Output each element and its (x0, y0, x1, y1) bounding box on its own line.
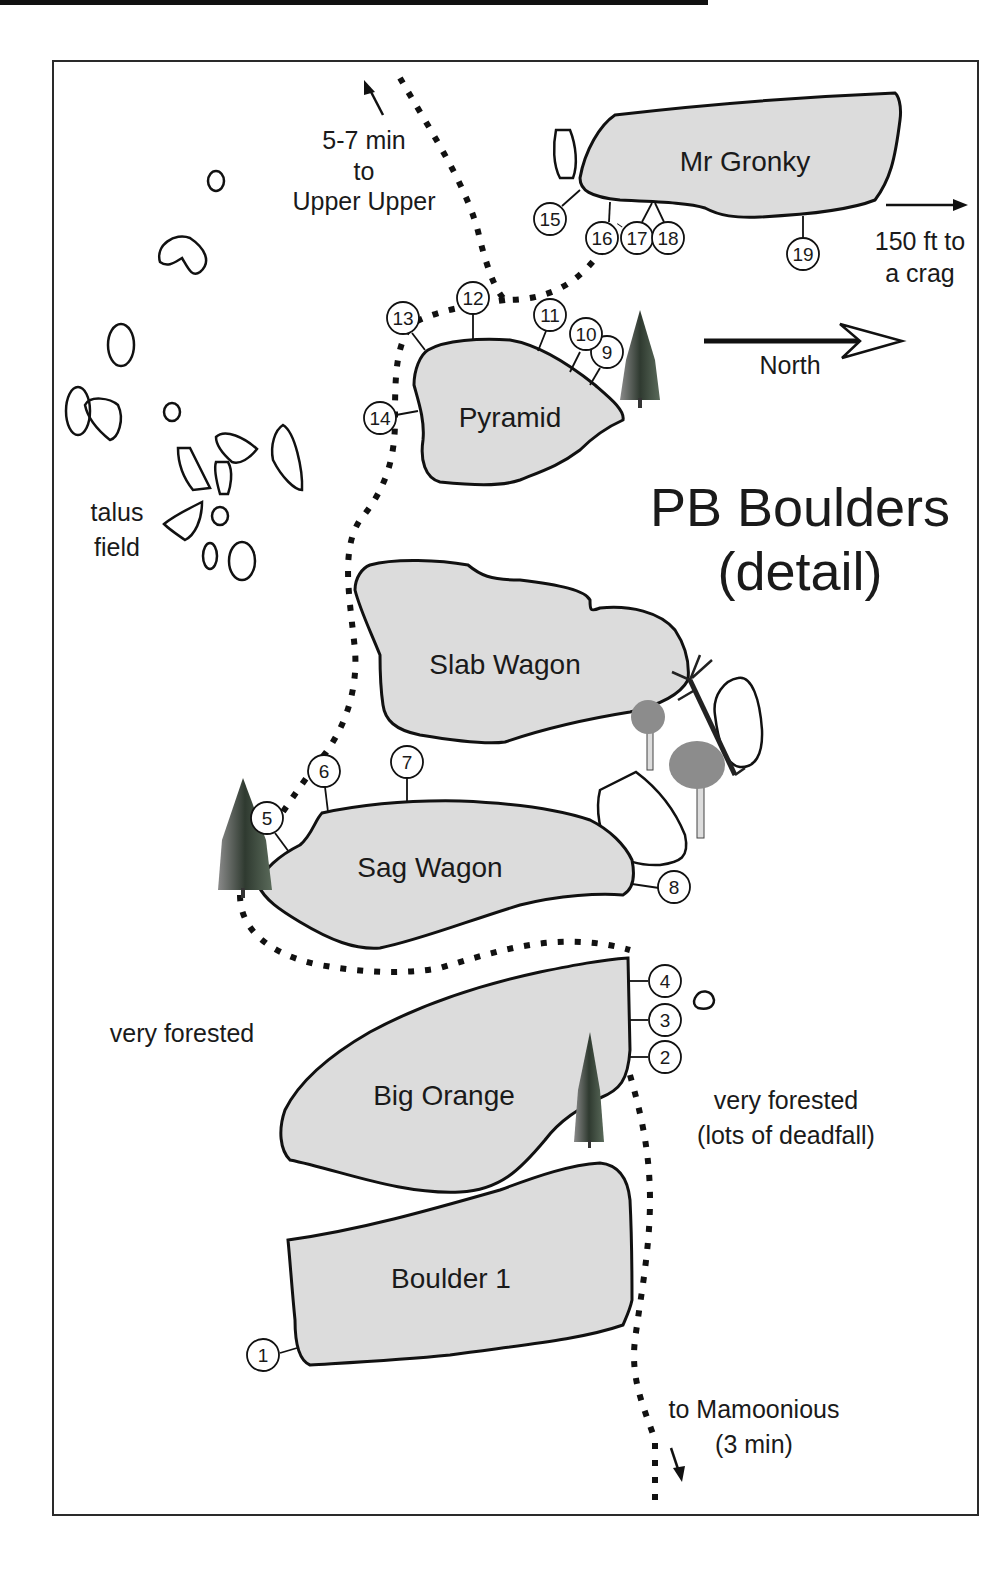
problem-marker-13[interactable]: 13 (387, 302, 419, 334)
svg-text:10: 10 (575, 324, 596, 345)
boulder-label-pyramid: Pyramid (459, 402, 562, 433)
boulder-label-boulder-1: Boulder 1 (391, 1263, 511, 1294)
map-title: PB Boulders (650, 477, 950, 537)
problem-marker-10[interactable]: 10 (570, 318, 602, 350)
problem-marker-4[interactable]: 4 (649, 965, 681, 997)
svg-text:7: 7 (402, 752, 413, 773)
svg-text:15: 15 (539, 209, 560, 230)
boulder-label-slab-wagon: Slab Wagon (429, 649, 581, 680)
svg-text:2: 2 (660, 1047, 671, 1068)
problem-marker-11[interactable]: 11 (534, 299, 566, 331)
note-upper-upper-time: 5-7 min (322, 126, 405, 154)
problem-marker-7[interactable]: 7 (391, 746, 423, 778)
pine-tree-icon (218, 778, 272, 898)
note-crag-dest: a crag (885, 259, 954, 287)
problem-marker-8[interactable]: 8 (658, 871, 690, 903)
note-mamoonious-time: (3 min) (715, 1430, 793, 1458)
boulder-label-sag-wagon: Sag Wagon (357, 852, 502, 883)
svg-text:8: 8 (669, 877, 680, 898)
problem-marker-19[interactable]: 19 (787, 238, 819, 270)
note-upper-upper-dest: Upper Upper (292, 187, 435, 215)
svg-text:16: 16 (591, 228, 612, 249)
boulder-big-orange[interactable]: Big Orange (281, 958, 630, 1192)
boulder-label-mr-gronky: Mr Gronky (680, 146, 811, 177)
problem-marker-12[interactable]: 12 (457, 282, 489, 314)
svg-text:19: 19 (792, 244, 813, 265)
svg-text:17: 17 (626, 228, 647, 249)
problem-marker-5[interactable]: 5 (251, 802, 283, 834)
svg-text:13: 13 (392, 308, 413, 329)
svg-text:5: 5 (262, 808, 273, 829)
boulder-mr-gronky[interactable]: Mr Gronky (554, 93, 900, 217)
svg-text:14: 14 (369, 408, 391, 429)
problem-marker-3[interactable]: 3 (649, 1004, 681, 1036)
problem-marker-16[interactable]: 16 (586, 222, 618, 254)
note-forest-left: very forested (110, 1019, 255, 1047)
boulder-label-big-orange: Big Orange (373, 1080, 515, 1111)
rock-outline (694, 991, 714, 1008)
svg-text:6: 6 (319, 761, 330, 782)
svg-text:12: 12 (462, 288, 483, 309)
arrow-right-icon (886, 199, 968, 211)
boulder-sag-wagon[interactable]: Sag Wagon (258, 801, 634, 948)
problem-marker-1[interactable]: 1 (247, 1339, 279, 1371)
note-talus: talus (91, 498, 144, 526)
problem-marker-15[interactable]: 15 (534, 203, 566, 235)
note-forest-right: very forested (714, 1086, 859, 1114)
svg-text:9: 9 (602, 342, 613, 363)
north-label: North (759, 351, 820, 379)
svg-text:3: 3 (660, 1010, 671, 1031)
problem-marker-2[interactable]: 2 (649, 1041, 681, 1073)
problem-marker-6[interactable]: 6 (308, 755, 340, 787)
problem-marker-14[interactable]: 14 (364, 402, 396, 434)
note-mamoonious: to Mamoonious (669, 1395, 840, 1423)
note-deadfall: (lots of deadfall) (697, 1121, 875, 1149)
note-field: field (94, 533, 140, 561)
note-upper-upper-to: to (354, 157, 375, 185)
map-subtitle: (detail) (717, 541, 882, 601)
svg-text:4: 4 (660, 971, 671, 992)
arrow-up-left-icon (364, 80, 383, 115)
deciduous-tree-icon (631, 700, 665, 770)
pine-tree-icon (620, 310, 660, 408)
problem-marker-17[interactable]: 17 (621, 222, 653, 254)
rock-outline (715, 678, 763, 767)
svg-text:1: 1 (258, 1345, 269, 1366)
arrow-down-icon (671, 1448, 685, 1482)
svg-text:11: 11 (540, 305, 560, 326)
boulder-map: Mr Gronky Pyramid Slab Wagon Sag Wagon B… (0, 0, 996, 1576)
boulder-pyramid[interactable]: Pyramid (414, 339, 623, 484)
svg-text:18: 18 (657, 228, 678, 249)
problem-marker-18[interactable]: 18 (652, 222, 684, 254)
note-crag-distance: 150 ft to (875, 227, 965, 255)
